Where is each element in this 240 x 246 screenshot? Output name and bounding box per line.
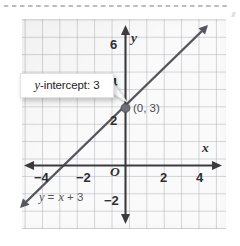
y-intercept-point-label: (0, 3) — [133, 102, 160, 114]
x-tick-label-neg4: −4 — [34, 170, 50, 185]
equation-label: y= x+ 3 — [37, 190, 83, 204]
y-tick-label-6: 6 — [110, 37, 117, 52]
y-tick-label-neg2: −2 — [104, 193, 119, 208]
y-axis-label: y — [129, 30, 138, 45]
callout-rest: -intercept: 3 — [40, 79, 99, 91]
x-tick-label-4: 4 — [196, 170, 204, 185]
x-axis-arrowhead-right — [212, 161, 222, 170]
y-axis-arrowhead-top — [121, 25, 130, 35]
x-axis-label: x — [201, 140, 209, 155]
x-axis-group: x — [24, 140, 222, 170]
equation-label-group: y= x+ 3 — [37, 190, 83, 204]
equation-label-x: x — [57, 190, 64, 204]
graph-figure: x y −4 −2 2 4 6 4 2 −2 O (0, 3) — [0, 0, 240, 246]
y-axis-group: y — [121, 25, 138, 224]
equation-label-y: y — [37, 190, 45, 204]
equation-label-tail: + 3 — [67, 191, 83, 203]
x-axis-arrowhead-left — [24, 161, 34, 170]
y-axis-arrowhead-bottom — [121, 214, 130, 224]
origin-label: O — [110, 164, 120, 179]
y-intercept-callout-text: y-intercept: 3 — [35, 78, 100, 93]
y-tick-label-2: 2 — [110, 113, 117, 128]
y-intercept-point — [121, 104, 130, 113]
x-tick-label-neg2: −2 — [76, 170, 91, 185]
plot-svg: x y −4 −2 2 4 6 4 2 −2 O (0, 3) — [0, 0, 240, 246]
equation-label-equals: = — [48, 191, 58, 203]
y-intercept-callout[interactable]: y-intercept: 3 — [20, 73, 114, 98]
x-tick-label-2: 2 — [160, 170, 167, 185]
